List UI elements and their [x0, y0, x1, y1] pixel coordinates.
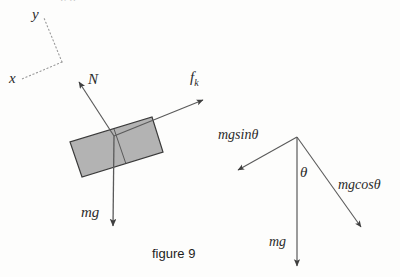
theta-angle-label: θ [300, 165, 307, 180]
block-shape [70, 117, 163, 177]
block-on-incline [70, 117, 163, 177]
y-axis-line [44, 18, 62, 62]
mg-weight-label: mg [269, 235, 286, 249]
figure-canvas: y g y x [0, 0, 400, 277]
coordinate-axes [22, 18, 62, 79]
y-axis-label: y [32, 7, 39, 22]
mg-sin-theta-label: mgsinθ [218, 128, 258, 142]
figure-drawing [0, 0, 400, 277]
figure-caption: figure 9 [152, 246, 195, 261]
mg-cos-theta-label: mgcosθ [338, 178, 381, 192]
normal-force-label: N [88, 72, 98, 87]
component-decomposition [238, 137, 361, 266]
kinetic-friction-vector [114, 100, 203, 136]
weight-label: mg [81, 205, 99, 220]
friction-label-subscript: k [194, 77, 198, 88]
normal-force-vector [79, 82, 114, 136]
kinetic-friction-label: fk [190, 70, 199, 88]
x-axis-label: x [9, 71, 16, 86]
x-axis-line [22, 62, 62, 79]
